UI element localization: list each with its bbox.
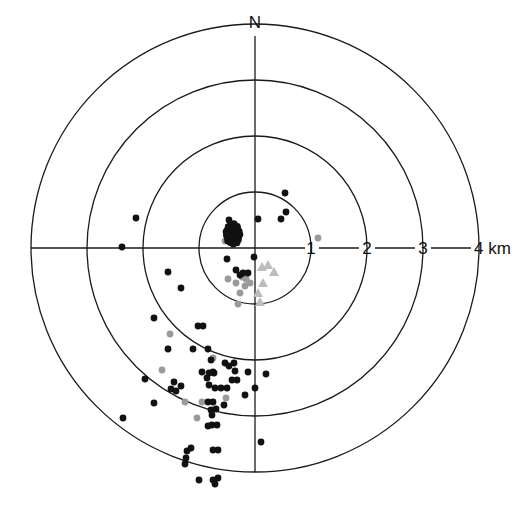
black-point (120, 415, 127, 422)
black-point (165, 269, 172, 276)
north-label: N (249, 13, 261, 32)
black-point (212, 385, 219, 392)
black-point (245, 270, 252, 277)
black-point (200, 323, 207, 330)
polar-distance-diagram: N 1234 km (0, 0, 523, 510)
black-point (263, 371, 270, 378)
black-point (235, 235, 242, 242)
black-point (215, 475, 222, 482)
black-point (213, 406, 220, 413)
black-point (206, 382, 213, 389)
black-point (208, 357, 215, 364)
black-point (173, 388, 180, 395)
black-point (178, 383, 185, 390)
black-point (199, 369, 206, 376)
black-point (232, 368, 239, 375)
gray-point (225, 276, 232, 283)
triangle-point (255, 297, 265, 306)
black-point (171, 379, 178, 386)
black-point (190, 346, 197, 353)
black-point (119, 244, 126, 251)
black-point (227, 239, 234, 246)
black-point (151, 315, 158, 322)
gray-point (237, 290, 244, 297)
black-point (210, 399, 217, 406)
data-points (119, 190, 322, 488)
black-point (142, 376, 149, 383)
ring-label-3km: 3 (418, 239, 427, 258)
black-point (151, 400, 158, 407)
gray-point (223, 395, 230, 402)
triangle-point (263, 260, 273, 269)
gray-point (167, 331, 174, 338)
black-point (218, 385, 225, 392)
black-point (251, 254, 258, 261)
ring-label-2km: 2 (362, 239, 371, 258)
black-point (188, 445, 195, 452)
black-point (221, 402, 228, 409)
gray-point (199, 399, 206, 406)
gray-point (235, 301, 242, 308)
black-point (165, 346, 172, 353)
black-point (234, 377, 241, 384)
black-point (215, 447, 222, 454)
black-point (133, 215, 140, 222)
black-point (205, 423, 212, 430)
black-point (278, 216, 285, 223)
black-point (282, 190, 289, 197)
black-point (182, 461, 189, 468)
black-point (205, 346, 212, 353)
black-point (258, 439, 265, 446)
triangle-point (258, 278, 268, 287)
black-point (211, 370, 218, 377)
black-point (224, 256, 231, 263)
black-point (242, 392, 249, 399)
black-point (196, 477, 203, 484)
black-point (204, 375, 211, 382)
black-point (224, 385, 231, 392)
black-point (183, 455, 190, 462)
black-point (283, 209, 290, 216)
gray-point (233, 280, 240, 287)
black-point (231, 360, 238, 367)
black-point (214, 422, 221, 429)
black-point (255, 216, 262, 223)
ring-label-1km: 1 (306, 239, 315, 258)
ring-label-4km: 4 km (474, 239, 511, 258)
gray-point (194, 415, 201, 422)
gray-point (182, 399, 189, 406)
black-point (245, 369, 252, 376)
gray-point (242, 283, 249, 290)
black-point (209, 412, 216, 419)
black-point (236, 229, 243, 236)
black-point (178, 285, 185, 292)
black-point (252, 385, 259, 392)
gray-point (159, 367, 166, 374)
black-point (212, 481, 219, 488)
black-point (224, 232, 231, 239)
